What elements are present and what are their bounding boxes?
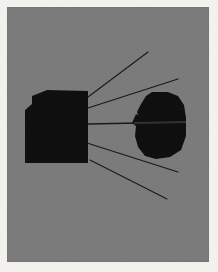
- speaker-head-illustration: Speaker Projecting Sound Toward a Listen…: [0, 0, 218, 272]
- ground-grain-texture: [7, 7, 209, 262]
- artwork-root: Speaker Projecting Sound Toward a Listen…: [0, 0, 218, 272]
